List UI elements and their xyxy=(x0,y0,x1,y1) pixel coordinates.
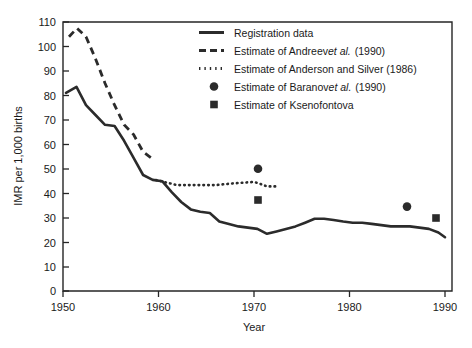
x-axis-ticks xyxy=(63,291,445,297)
y-tick-label: 70 xyxy=(44,114,56,126)
legend-label-text: Estimate of Andreev xyxy=(234,45,329,57)
legend-label-year: (1990) xyxy=(355,45,385,57)
legend-label-italic: et al. xyxy=(328,45,351,57)
series-anderson-silver-estimate xyxy=(156,180,276,186)
chart-legend: Registration data Estimate of Andreevet … xyxy=(199,27,417,111)
legend-entry-baranov: Estimate of Baranovet al.(1990) xyxy=(210,81,386,93)
legend-entry-andreev: Estimate of Andreevet al.(1990) xyxy=(199,45,385,57)
square-swatch-icon xyxy=(210,101,218,109)
baranov-data-point xyxy=(403,202,412,211)
y-axis-title: IMR per 1,000 births xyxy=(12,106,24,206)
y-tick-label: 40 xyxy=(44,188,56,200)
y-tick-label: 10 xyxy=(44,261,56,273)
ksenofontova-data-point xyxy=(432,214,440,222)
circle-swatch-icon xyxy=(210,82,219,91)
legend-label: Estimate of Ksenofontova xyxy=(234,99,354,111)
anderson-silver-estimate-line xyxy=(156,180,276,186)
y-tick-label: 30 xyxy=(44,212,56,224)
x-axis-tick-labels: 1950 1960 1970 1980 1990 xyxy=(51,301,457,313)
legend-label: Registration data xyxy=(234,27,314,39)
andreev-estimate-line xyxy=(69,28,152,158)
x-tick-label: 1970 xyxy=(242,301,266,313)
imr-line-chart: 110 100 90 80 70 60 50 40 30 20 10 0 195… xyxy=(0,0,472,348)
x-tick-label: 1950 xyxy=(51,301,75,313)
y-axis-ticks xyxy=(63,22,69,291)
legend-label-text: Estimate of Baranov xyxy=(234,81,329,93)
series-ksenofontova-estimate xyxy=(254,196,440,222)
series-baranov-estimate xyxy=(254,165,412,211)
x-axis-title: Year xyxy=(243,321,266,333)
series-andreev-estimate xyxy=(69,28,152,158)
legend-entry-anderson-silver: Estimate of Anderson and Silver (1986) xyxy=(199,63,417,75)
y-tick-label: 80 xyxy=(44,90,56,102)
y-tick-label: 0 xyxy=(50,285,56,297)
x-tick-label: 1960 xyxy=(146,301,170,313)
y-tick-label: 50 xyxy=(44,163,56,175)
legend-label: Estimate of Anderson and Silver (1986) xyxy=(234,63,417,75)
y-tick-label: 90 xyxy=(44,65,56,77)
ksenofontova-data-point xyxy=(254,196,262,204)
y-tick-label: 20 xyxy=(44,237,56,249)
x-tick-label: 1990 xyxy=(433,301,457,313)
y-tick-label: 60 xyxy=(44,139,56,151)
legend-label-year: (1990) xyxy=(355,81,385,93)
y-tick-label: 110 xyxy=(38,16,56,28)
y-axis-tick-labels: 110 100 90 80 70 60 50 40 30 20 10 0 xyxy=(38,16,56,297)
chart-container: 110 100 90 80 70 60 50 40 30 20 10 0 195… xyxy=(0,0,472,348)
y-tick-label: 100 xyxy=(38,41,56,53)
legend-entry-ksenofontova: Estimate of Ksenofontova xyxy=(210,99,354,111)
legend-label: Estimate of Andreevet al.(1990) xyxy=(234,45,385,57)
x-tick-label: 1980 xyxy=(337,301,361,313)
legend-entry-registration-data: Registration data xyxy=(199,27,314,39)
baranov-data-point xyxy=(254,165,263,174)
legend-label-italic: et al. xyxy=(329,81,352,93)
legend-label: Estimate of Baranovet al.(1990) xyxy=(234,81,386,93)
